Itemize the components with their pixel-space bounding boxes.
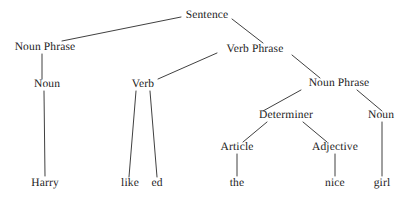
tree-edge-noun1-to-harry (44, 91, 45, 176)
tree-node-verb: Verb (132, 78, 154, 90)
tree-leaf-like: like (121, 177, 139, 189)
tree-edge-verb-to-like (129, 91, 136, 177)
tree-edge-determiner-to-article (243, 122, 267, 142)
tree-node-noun2: Noun (368, 109, 394, 121)
tree-node-determiner: Determiner (259, 109, 313, 121)
tree-edge-np2-to-noun2 (357, 90, 382, 111)
tree-node-adjective: Adjective (312, 141, 358, 153)
tree-edge-np2-to-determiner (263, 90, 301, 111)
tree-node-np2: Noun Phrase (309, 77, 370, 89)
tree-node-article: Article (221, 141, 254, 153)
tree-edge-sentence-to-np1 (62, 17, 181, 41)
tree-node-np1: Noun Phrase (15, 41, 76, 53)
tree-leaf-the: the (230, 177, 245, 189)
tree-edge-verb-to-ed (150, 91, 157, 177)
tree-edge-determiner-to-adjective (303, 122, 327, 142)
tree-edge-vp-to-verb (158, 53, 217, 79)
syntax-tree-diagram: SentenceNoun PhraseVerb PhraseNounVerbNo… (0, 0, 410, 200)
tree-leaf-nice: nice (325, 177, 345, 189)
tree-leaf-harry: Harry (31, 177, 59, 189)
tree-edge-sentence-to-vp (232, 19, 263, 43)
tree-node-noun1: Noun (34, 78, 60, 90)
tree-node-sentence: Sentence (186, 9, 229, 21)
tree-leaf-ed: ed (151, 177, 162, 189)
tree-node-vp: Verb Phrase (227, 43, 284, 55)
tree-edge-vp-to-np2 (292, 55, 320, 78)
tree-edges-layer (0, 0, 410, 200)
tree-leaf-girl: girl (374, 177, 391, 189)
